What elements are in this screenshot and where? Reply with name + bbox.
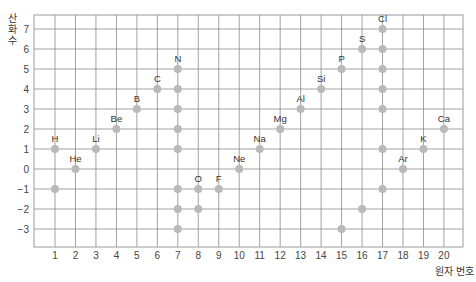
data-point-si — [317, 85, 325, 93]
element-label-b: B — [134, 93, 140, 104]
y-tick-label: −1 — [18, 184, 30, 195]
y-tick-label: 2 — [23, 124, 29, 135]
element-label-s: S — [359, 33, 365, 44]
data-point-cl — [379, 85, 387, 93]
y-axis-label: 산화수 — [8, 13, 17, 46]
element-label-h: H — [52, 133, 59, 144]
element-label-k: K — [420, 133, 427, 144]
element-label-c: C — [154, 73, 161, 84]
data-point-cl — [379, 145, 387, 153]
data-point-n — [174, 185, 182, 193]
data-point-n — [174, 105, 182, 113]
element-label-o: O — [195, 173, 202, 184]
data-point-o — [194, 205, 202, 213]
data-point-he — [71, 165, 79, 173]
y-tick-label: 7 — [23, 24, 29, 35]
element-label-mg: Mg — [274, 113, 287, 124]
element-labels: HHeLiBeBCNOFNeNaMgAlSiPSClArKCa — [52, 13, 451, 184]
y-tick-label: −3 — [18, 224, 30, 235]
data-point-p — [338, 65, 346, 73]
x-tick-label: 3 — [93, 250, 99, 261]
x-tick-label: 18 — [397, 250, 409, 261]
data-point-cl — [379, 105, 387, 113]
element-label-f: F — [216, 173, 222, 184]
data-point-ca — [440, 125, 448, 133]
plot-frame — [34, 15, 463, 247]
y-tick-label: 1 — [23, 144, 29, 155]
x-tick-label: 4 — [114, 250, 120, 261]
y-axis-ticks: −3−2−101234567 — [18, 24, 30, 235]
data-point-na — [256, 145, 264, 153]
element-label-p: P — [338, 53, 344, 64]
data-point-n — [174, 205, 182, 213]
element-label-ne: Ne — [233, 153, 245, 164]
x-tick-label: 17 — [377, 250, 389, 261]
data-point-li — [92, 145, 100, 153]
x-tick-label: 19 — [418, 250, 430, 261]
data-point-n — [174, 65, 182, 73]
data-point-n — [174, 225, 182, 233]
data-point-cl — [379, 65, 387, 73]
element-label-si: Si — [317, 73, 325, 84]
data-point-k — [419, 145, 427, 153]
oxidation-number-chart: 1234567891011121314151617181920 −3−2−101… — [0, 0, 476, 282]
data-point-s — [358, 205, 366, 213]
x-tick-label: 9 — [216, 250, 222, 261]
x-tick-label: 6 — [155, 250, 161, 261]
data-point-cl — [379, 45, 387, 53]
y-tick-label: 3 — [23, 104, 29, 115]
x-tick-label: 8 — [196, 250, 202, 261]
data-point-ne — [235, 165, 243, 173]
data-point-n — [174, 85, 182, 93]
element-label-be: Be — [111, 113, 123, 124]
y-tick-label: 6 — [23, 44, 29, 55]
x-tick-label: 10 — [234, 250, 246, 261]
element-label-he: He — [69, 153, 81, 164]
x-tick-label: 5 — [134, 250, 140, 261]
data-point-p — [338, 225, 346, 233]
y-tick-label: 0 — [23, 164, 29, 175]
data-point-f — [215, 185, 223, 193]
element-label-al: Al — [296, 93, 304, 104]
data-point-n — [174, 125, 182, 133]
data-point-al — [297, 105, 305, 113]
data-point-n — [174, 145, 182, 153]
y-tick-label: 4 — [23, 84, 29, 95]
data-point-ar — [399, 165, 407, 173]
data-point-mg — [276, 125, 284, 133]
data-point-b — [133, 105, 141, 113]
x-tick-label: 11 — [255, 250, 266, 261]
data-point-c — [153, 85, 161, 93]
y-axis-label-char: 화 — [8, 24, 17, 35]
x-tick-label: 7 — [175, 250, 181, 261]
data-point-h — [51, 145, 59, 153]
data-point-be — [112, 125, 120, 133]
x-tick-label: 15 — [336, 250, 348, 261]
x-tick-label: 14 — [316, 250, 328, 261]
data-point-o — [194, 185, 202, 193]
x-axis-ticks: 1234567891011121314151617181920 — [52, 250, 450, 261]
element-label-ar: Ar — [398, 153, 408, 164]
element-label-n: N — [174, 53, 181, 64]
element-label-ca: Ca — [438, 113, 451, 124]
data-point-cl — [379, 25, 387, 33]
data-point-h — [51, 185, 59, 193]
element-label-li: Li — [92, 133, 99, 144]
x-axis-label: 원자 번호 — [435, 266, 474, 277]
x-tick-label: 2 — [73, 250, 79, 261]
data-point-cl — [379, 185, 387, 193]
element-label-cl: Cl — [378, 13, 387, 24]
x-tick-label: 12 — [275, 250, 287, 261]
grid-lines — [34, 15, 463, 247]
y-tick-label: 5 — [23, 64, 29, 75]
x-tick-label: 20 — [438, 250, 450, 261]
y-tick-label: −2 — [18, 204, 30, 215]
x-tick-label: 16 — [356, 250, 368, 261]
element-label-na: Na — [254, 133, 267, 144]
y-axis-label-char: 산 — [8, 13, 17, 24]
data-point-s — [358, 45, 366, 53]
y-axis-label-char: 수 — [8, 35, 17, 46]
x-tick-label: 13 — [295, 250, 307, 261]
x-tick-label: 1 — [52, 250, 58, 261]
